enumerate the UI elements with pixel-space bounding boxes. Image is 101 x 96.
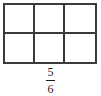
grid-cell	[5, 34, 35, 63]
fraction: 5 6	[46, 66, 56, 95]
fraction-bar	[46, 80, 55, 81]
grid-cell	[35, 34, 65, 63]
grid-cell	[65, 5, 95, 34]
fraction-denominator: 6	[46, 82, 56, 95]
grid-cell	[35, 5, 65, 34]
fraction-label: 5 6	[0, 66, 101, 95]
fraction-figure: 5 6	[0, 0, 101, 96]
fraction-grid	[3, 3, 97, 64]
fraction-numerator: 5	[46, 66, 56, 79]
grid-cell	[65, 34, 95, 63]
grid-cell	[5, 5, 35, 34]
